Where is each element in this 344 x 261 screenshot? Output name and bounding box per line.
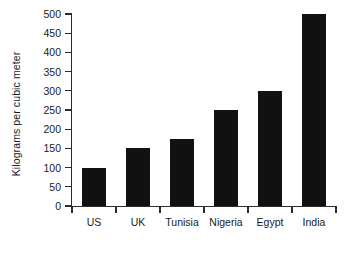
x-axis-label-uk: UK <box>131 216 146 228</box>
x-axis-label-tunisia: Tunisia <box>165 216 198 228</box>
y-axis-title: Kilograms per cubic meter <box>10 14 22 214</box>
y-tick-label: 100 <box>43 162 61 174</box>
y-tick: 200 <box>65 129 72 130</box>
y-tick-label: 300 <box>43 85 61 97</box>
x-tick <box>335 206 336 213</box>
y-tick-label: 450 <box>43 27 61 39</box>
y-tick: 350 <box>65 71 72 72</box>
bar-india <box>302 14 326 206</box>
bar-egypt <box>258 91 282 206</box>
y-tick-label: 0 <box>55 200 61 212</box>
x-tick <box>247 206 248 213</box>
x-tick <box>291 206 292 213</box>
y-tick-label: 500 <box>43 8 61 20</box>
y-tick: 300 <box>65 90 72 91</box>
y-tick-label: 150 <box>43 142 61 154</box>
x-axis-label-egypt: Egypt <box>257 216 284 228</box>
bar-tunisia <box>170 139 194 206</box>
y-tick: 150 <box>65 148 72 149</box>
bar-us <box>82 168 106 206</box>
y-tick-label: 400 <box>43 46 61 58</box>
y-tick: 50 <box>65 186 72 187</box>
plot-area <box>72 14 336 206</box>
x-tick <box>203 206 204 213</box>
x-tick <box>115 206 116 213</box>
x-tick <box>159 206 160 213</box>
y-tick-label: 200 <box>43 123 61 135</box>
bar-chart: Kilograms per cubic meter 05010015020025… <box>0 0 344 261</box>
y-tick-label: 250 <box>43 104 61 116</box>
x-axis-label-us: US <box>87 216 102 228</box>
y-tick: 250 <box>65 109 72 110</box>
y-tick-label: 50 <box>49 181 61 193</box>
y-tick: 450 <box>65 33 72 34</box>
y-tick: 500 <box>65 13 72 14</box>
bar-nigeria <box>214 110 238 206</box>
x-axis-label-nigeria: Nigeria <box>209 216 242 228</box>
y-tick: 100 <box>65 167 72 168</box>
y-tick-label: 350 <box>43 66 61 78</box>
y-tick: 400 <box>65 52 72 53</box>
bar-uk <box>126 148 150 206</box>
x-axis-label-india: India <box>303 216 326 228</box>
x-tick <box>71 206 72 213</box>
